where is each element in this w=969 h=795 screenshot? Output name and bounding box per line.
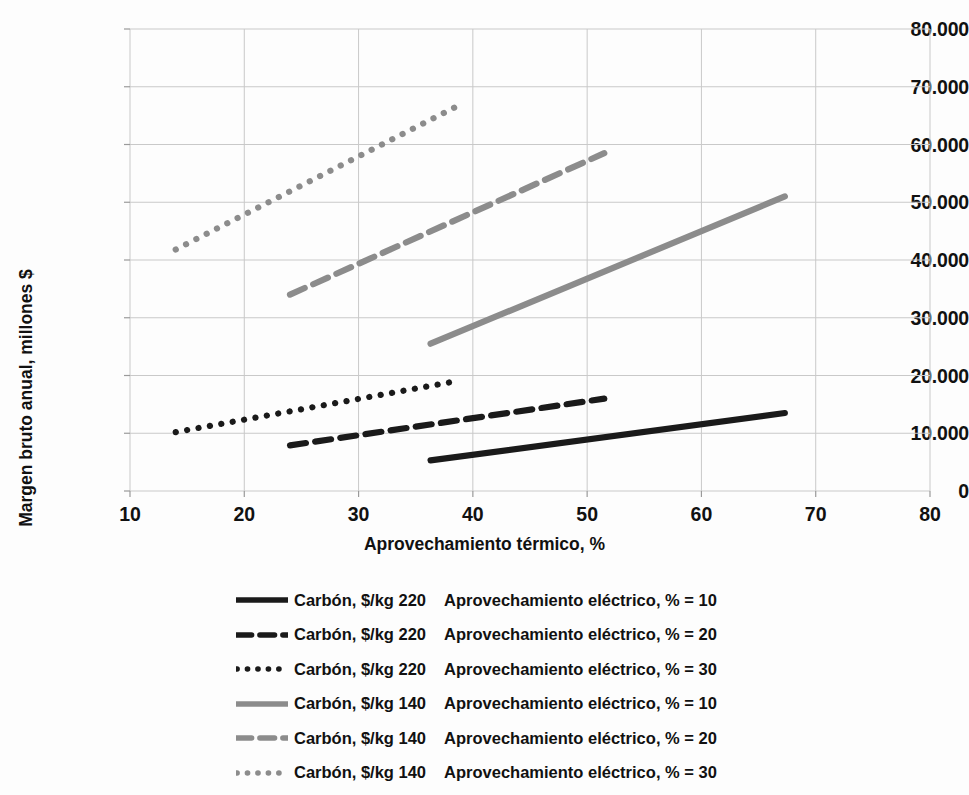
legend-label-5: Carbón, $/kg 140Aprovechamiento eléctric… [294,729,717,748]
legend-swatch-solid-icon [236,697,288,711]
plot-area [130,29,930,491]
legend-swatch-solid-icon [236,593,288,607]
series-line-5 [290,153,604,294]
series-line-2 [290,399,604,446]
x-axis-tick-label: 40 [438,503,508,526]
legend-electric-efficiency: Aprovechamiento eléctrico, % = 20 [444,625,717,643]
legend-label-1: Carbón, $/kg 220Aprovechamiento eléctric… [294,591,717,610]
legend-item-6[interactable]: Carbón, $/kg 140Aprovechamiento eléctric… [236,756,756,791]
legend-label-4: Carbón, $/kg 140Aprovechamiento eléctric… [294,694,717,713]
legend-coal-price: Carbón, $/kg 220 [294,625,426,643]
series-line-1 [431,413,785,460]
x-axis-tick-label: 80 [895,503,965,526]
legend-item-2[interactable]: Carbón, $/kg 220Aprovechamiento eléctric… [236,618,756,653]
legend-label-2: Carbón, $/kg 220Aprovechamiento eléctric… [294,625,717,644]
legend-coal-price: Carbón, $/kg 140 [294,763,426,781]
legend-coal-price: Carbón, $/kg 140 [294,729,426,747]
chart-legend: Carbón, $/kg 220Aprovechamiento eléctric… [236,583,756,790]
legend-item-1[interactable]: Carbón, $/kg 220Aprovechamiento eléctric… [236,583,756,618]
chart-figure: Margen bruto anual, millones $ 010.00020… [0,0,969,795]
legend-electric-efficiency: Aprovechamiento eléctrico, % = 30 [444,660,717,678]
x-axis-tick-label: 30 [324,503,394,526]
legend-item-4[interactable]: Carbón, $/kg 140Aprovechamiento eléctric… [236,687,756,722]
legend-coal-price: Carbón, $/kg 220 [294,591,426,609]
x-axis-tick-label: 60 [666,503,736,526]
x-axis-tick-label: 70 [781,503,851,526]
legend-coal-price: Carbón, $/kg 220 [294,660,426,678]
legend-label-3: Carbón, $/kg 220Aprovechamiento eléctric… [294,660,717,679]
legend-swatch-dotted-icon [236,766,288,780]
y-axis-title: Margen bruto anual, millones $ [16,269,37,527]
legend-electric-efficiency: Aprovechamiento eléctrico, % = 20 [444,729,717,747]
legend-electric-efficiency: Aprovechamiento eléctrico, % = 10 [444,694,717,712]
legend-item-3[interactable]: Carbón, $/kg 220Aprovechamiento eléctric… [236,652,756,687]
legend-swatch-dashed-icon [236,628,288,642]
legend-electric-efficiency: Aprovechamiento eléctrico, % = 10 [444,591,717,609]
series-line-6 [176,107,456,250]
x-axis-tick-label: 50 [552,503,622,526]
legend-electric-efficiency: Aprovechamiento eléctrico, % = 30 [444,763,717,781]
legend-swatch-dashed-icon [236,731,288,745]
x-axis-tick-label: 20 [209,503,279,526]
x-axis-title: Aprovechamiento térmico, % [0,534,969,555]
series-line-4 [431,196,785,343]
legend-item-5[interactable]: Carbón, $/kg 140Aprovechamiento eléctric… [236,721,756,756]
x-axis-tick-label: 10 [95,503,165,526]
data-series-layer [130,29,930,491]
legend-coal-price: Carbón, $/kg 140 [294,694,426,712]
legend-swatch-dotted-icon [236,662,288,676]
legend-label-6: Carbón, $/kg 140Aprovechamiento eléctric… [294,763,717,782]
